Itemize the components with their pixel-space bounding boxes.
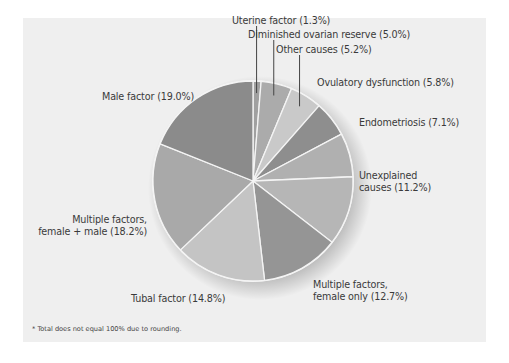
label-female-only-line1: Multiple factors, xyxy=(313,279,408,291)
label-ovulatory-dysfunction: Ovulatory dysfunction (5.8%) xyxy=(317,77,454,89)
label-multiple-factors-female-male: Multiple factors, female + male (18.2%) xyxy=(33,214,147,238)
label-unexplained-line2: causes (11.2%) xyxy=(359,182,431,194)
label-tubal-factor: Tubal factor (14.8%) xyxy=(131,293,225,305)
label-unexplained-line1: Unexplained xyxy=(359,170,431,182)
chart-panel: Uterine factor (1.3%) Diminished ovarian… xyxy=(23,18,486,342)
pie-slices xyxy=(153,81,353,281)
label-multiple-factors-female-only: Multiple factors, female only (12.7%) xyxy=(313,279,408,303)
label-diminished-ovarian-reserve: Diminished ovarian reserve (5.0%) xyxy=(248,29,410,41)
label-uterine-factor: Uterine factor (1.3%) xyxy=(232,15,330,27)
label-male-factor: Male factor (19.0%) xyxy=(102,91,194,103)
footnote: * Total does not equal 100% due to round… xyxy=(32,325,182,333)
label-female-male-line2: female + male (18.2%) xyxy=(33,226,147,238)
label-female-only-line2: female only (12.7%) xyxy=(313,291,408,303)
label-female-male-line1: Multiple factors, xyxy=(33,214,147,226)
label-endometriosis: Endometriosis (7.1%) xyxy=(359,117,459,129)
label-other-causes: Other causes (5.2%) xyxy=(276,44,371,56)
label-unexplained-causes: Unexplained causes (11.2%) xyxy=(359,170,431,194)
